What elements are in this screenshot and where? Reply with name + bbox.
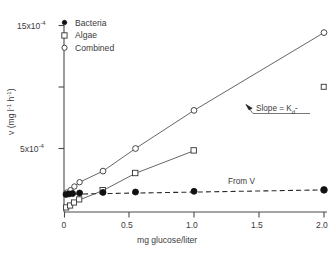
y-tick-label-15: 15x10-4 xyxy=(17,20,46,31)
algae-point xyxy=(71,200,76,205)
legend-marker-algae xyxy=(62,33,67,38)
x-tick-label-1p5: 1.5 xyxy=(251,220,263,230)
bacteria-point xyxy=(321,187,328,194)
x-axis-title: mg glucose/liter xyxy=(137,235,197,245)
legend-marker-bacteria xyxy=(62,20,66,24)
legend-label-combined: Combined xyxy=(75,43,114,53)
figure-container: 15x10-4 5x10-4 v (mg l-1 h-1) 0 0.5 1.0 … xyxy=(0,0,333,261)
algae-point xyxy=(77,197,82,202)
combined-point xyxy=(100,168,106,174)
bacteria-point xyxy=(133,189,139,195)
slope-arrowhead xyxy=(246,105,252,110)
combined-point xyxy=(133,146,139,152)
bacteria-point xyxy=(70,191,76,197)
x-tick-label-2p0: 2.0 xyxy=(316,220,328,230)
y-tick-label-5: 5x10-4 xyxy=(20,143,44,154)
combined-point xyxy=(77,180,82,185)
bacteria-point xyxy=(191,188,197,194)
legend-label-algae: Algae xyxy=(75,30,97,40)
slope-label: Slope = Kd- xyxy=(256,104,298,115)
bacteria-point xyxy=(77,190,83,196)
algae-point xyxy=(191,148,196,153)
combined-point xyxy=(72,184,77,189)
x-tick-label-0: 0 xyxy=(62,220,67,230)
combined-point xyxy=(321,30,327,36)
x-tick-label-0p5: 0.5 xyxy=(121,220,133,230)
algae-point xyxy=(321,84,326,89)
slope-annotation: Slope = Kd- xyxy=(246,104,310,115)
combined-point xyxy=(191,108,197,114)
x-tick-label-1p0: 1.0 xyxy=(186,220,198,230)
legend-label-bacteria: Bacteria xyxy=(75,18,107,28)
legend: Bacteria Algae Combined xyxy=(62,18,115,53)
algae-point xyxy=(133,170,138,175)
bacteria-point xyxy=(100,189,106,195)
y-axis-title: v (mg l-1 h-1) xyxy=(6,88,17,135)
legend-marker-combined xyxy=(62,45,67,50)
from-v-label: From V xyxy=(228,177,255,186)
scatter-plot: 15x10-4 5x10-4 v (mg l-1 h-1) 0 0.5 1.0 … xyxy=(0,0,333,261)
